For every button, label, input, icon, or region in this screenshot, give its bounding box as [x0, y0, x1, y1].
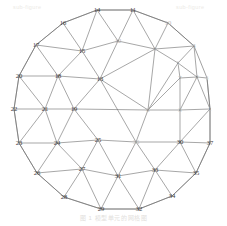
mesh-edge	[82, 10, 97, 51]
mesh-edge	[74, 109, 148, 110]
mesh-node-label-29: 29	[98, 205, 105, 212]
mesh-edge	[118, 41, 155, 49]
mesh-node-label-13: 13	[97, 75, 104, 82]
mesh-edge	[82, 169, 101, 209]
mesh-edge	[100, 41, 118, 79]
mesh-edge	[133, 10, 155, 49]
mesh-edge	[180, 77, 197, 110]
mesh-edge	[180, 109, 210, 142]
mesh-edge	[82, 41, 118, 51]
mesh-diagram: 1234567891011121314151617181920212223242…	[0, 0, 227, 226]
mesh-edge	[180, 109, 210, 110]
mesh-edge	[100, 49, 155, 79]
mesh-node-label-18: 18	[55, 72, 62, 79]
mesh-edge	[58, 51, 82, 76]
mesh-edge	[37, 169, 82, 173]
mesh-node-label-20: 20	[16, 72, 23, 79]
mesh-node-label-22: 22	[11, 105, 18, 112]
mesh-edge	[82, 169, 118, 176]
mesh-edge	[118, 170, 155, 176]
mesh-node-label-37: 37	[207, 139, 214, 146]
mesh-edge	[19, 109, 45, 143]
mesh-edge	[180, 142, 210, 143]
mesh-node-label-26: 26	[34, 169, 41, 176]
mesh-node-label-36: 36	[133, 138, 140, 145]
mesh-node-label-14: 14	[94, 6, 101, 13]
figure-caption: 图 1 模型单元的网格图	[0, 213, 227, 222]
mesh-node-label-7: 7	[178, 74, 182, 81]
mesh-figure: sub-figure sub-figure 123456789101112131…	[0, 0, 227, 226]
mesh-node-label-31: 31	[115, 172, 122, 179]
mesh-node-label-34: 34	[169, 192, 176, 199]
mesh-edge	[139, 170, 155, 209]
mesh-edge	[155, 142, 180, 170]
mesh-node-label-28: 28	[61, 193, 68, 200]
mesh-node-label-23: 23	[16, 139, 23, 146]
mesh-node-label-33: 33	[152, 166, 159, 173]
mesh-node-label-2: 2	[195, 73, 198, 80]
mesh-node-label-32: 32	[136, 205, 143, 212]
mesh-edge	[100, 79, 136, 142]
mesh-edge	[57, 140, 98, 143]
mesh-node-label-1: 1	[208, 105, 211, 112]
mesh-node-label-16: 16	[60, 19, 67, 26]
mesh-edge	[74, 79, 100, 109]
mesh-node-label-25: 25	[95, 136, 102, 143]
mesh-node-label-4: 4	[205, 74, 209, 81]
mesh-edge	[155, 49, 178, 63]
mesh-edge	[98, 140, 136, 142]
mesh-edge	[148, 78, 180, 110]
mesh-node-label-10: 10	[165, 19, 172, 26]
mesh-node-label-35: 35	[193, 169, 200, 176]
mesh-edge	[155, 170, 196, 173]
mesh-edge	[36, 45, 82, 51]
mesh-node-label-19: 19	[71, 105, 78, 112]
mesh-node-label-11: 11	[130, 6, 136, 13]
mesh-node-label-30: 30	[177, 138, 184, 145]
mesh-edge	[155, 46, 194, 49]
mesh-edge	[100, 79, 148, 110]
mesh-node-label-27: 27	[79, 165, 86, 172]
mesh-node-label-21: 21	[42, 105, 49, 112]
mesh-node-label-15: 15	[79, 47, 86, 54]
mesh-node-label-12: 12	[115, 37, 122, 44]
mesh-edge	[178, 46, 194, 63]
mesh-edge	[58, 76, 100, 79]
mesh-node-label-8: 8	[192, 42, 196, 49]
mesh-edge	[155, 23, 168, 49]
mesh-node-label-6: 6	[146, 106, 150, 113]
mesh-node-label-17: 17	[33, 41, 40, 48]
mesh-node-label-24: 24	[54, 139, 61, 146]
